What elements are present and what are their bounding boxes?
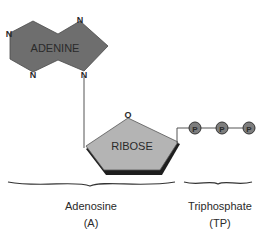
- phosphate-chain: P P P: [177, 122, 255, 143]
- adenosine-brace: [8, 182, 175, 186]
- phosphate-label-2: P: [219, 125, 225, 134]
- atp-diagram: ADENINE N N N N RIBOSE O P P P: [0, 0, 263, 234]
- ribose-label: RIBOSE: [111, 140, 153, 152]
- oxygen-atom: O: [124, 110, 131, 120]
- triphosphate-name: Triphosphate: [178, 200, 262, 213]
- phosphate-label-1: P: [192, 125, 198, 134]
- triphosphate-brace: [184, 182, 252, 184]
- adenosine-caption: Adenosine (A): [41, 200, 141, 230]
- triphosphate-abbr: (TP): [178, 217, 262, 230]
- triphosphate-caption: Triphosphate (TP): [178, 200, 262, 230]
- phosphate-label-3: P: [246, 125, 252, 134]
- atom-n-2: N: [30, 70, 37, 80]
- adenosine-abbr: (A): [41, 217, 141, 230]
- atom-n-4: N: [81, 70, 88, 80]
- ribose-ring: RIBOSE O: [86, 110, 180, 175]
- adenosine-name: Adenosine: [41, 200, 141, 213]
- atom-n-3: N: [77, 15, 84, 25]
- adenine-label: ADENINE: [31, 42, 80, 54]
- adenine-ring: ADENINE N N N N: [6, 15, 108, 80]
- atom-n-1: N: [6, 29, 13, 39]
